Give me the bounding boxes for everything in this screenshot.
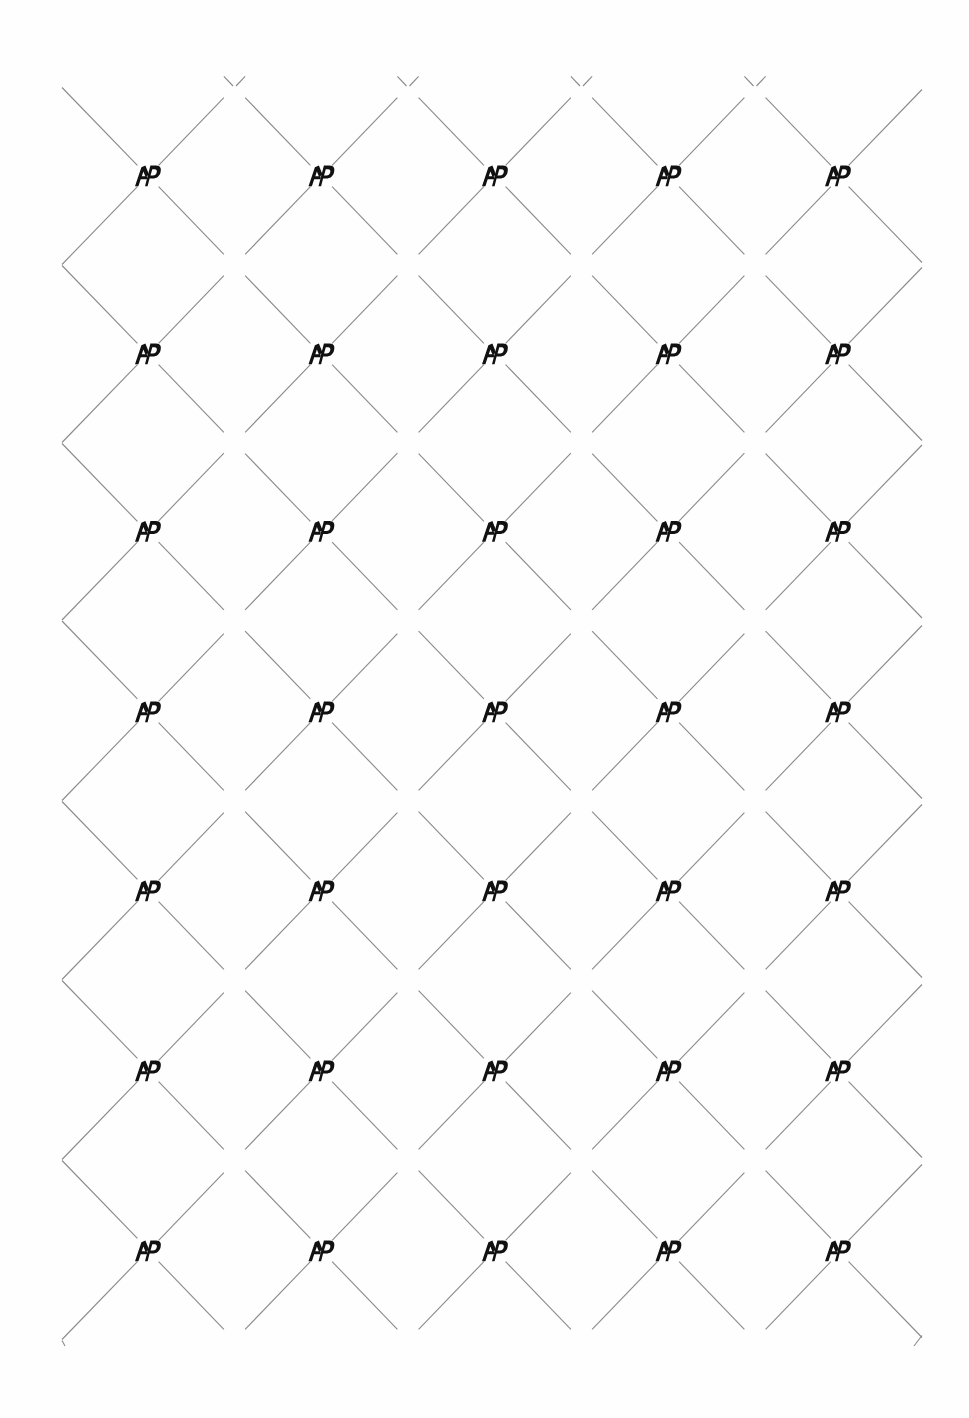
lattice-line [592, 812, 657, 880]
ap-monogram-p-bowl [835, 166, 851, 187]
ap-monogram-p-bowl [666, 344, 682, 365]
lattice-line [766, 276, 831, 344]
lattice-line [332, 453, 397, 521]
lattice-line [766, 991, 831, 1059]
lattice-line [62, 1341, 65, 1347]
ap-monogram-p-bowl [666, 1241, 682, 1262]
lattice-line [679, 1262, 744, 1330]
lattice-line [592, 723, 657, 791]
lattice-line [679, 187, 744, 255]
lattice-line [766, 1262, 831, 1330]
lattice-line [159, 902, 224, 970]
ap-monogram-p-bowl [319, 1241, 335, 1262]
lattice-line [62, 187, 137, 265]
lattice-line [419, 1082, 484, 1150]
lattice-line [159, 453, 224, 521]
diamond-lattice-pattern [0, 0, 969, 1418]
lattice-line [766, 454, 831, 522]
lattice-line [332, 365, 397, 433]
lattice-line [571, 76, 580, 86]
lattice-line [159, 98, 224, 166]
lattice-line [159, 1173, 224, 1241]
ap-monogram-p-bowl [835, 702, 851, 723]
ap-monogram-logo [482, 521, 508, 542]
lattice-line [419, 276, 484, 344]
lattice-line [419, 1262, 484, 1330]
lattice-line [592, 187, 657, 255]
ap-monogram-logo [309, 1061, 335, 1082]
lattice-line [332, 634, 397, 702]
lattice-line [766, 1082, 831, 1150]
ap-monogram-logo [135, 1241, 161, 1262]
lattice-line [592, 631, 657, 699]
ap-monogram-p-bowl [319, 702, 335, 723]
lattice-line [419, 542, 484, 610]
lattice-line [592, 1082, 657, 1150]
lattice-line [506, 902, 571, 970]
ap-monogram-logo [482, 1061, 508, 1082]
ap-monogram-logo [309, 702, 335, 723]
ap-monogram-p-bowl [835, 1061, 851, 1082]
lattice-line [506, 365, 571, 433]
lattice-line [744, 76, 753, 86]
ap-monogram-logo [135, 166, 161, 187]
lattice-line [679, 993, 744, 1061]
lattice-line [592, 365, 657, 433]
ap-monogram-p-bowl [492, 1241, 508, 1262]
ap-monogram-p-bowl [666, 1061, 682, 1082]
lattice-line [245, 812, 310, 880]
lattice-line [592, 1171, 657, 1239]
lattice-line [62, 365, 137, 443]
lattice-line [506, 453, 571, 521]
lattice-line [236, 76, 245, 86]
lattice-line [159, 634, 224, 702]
ap-monogram-logo [656, 881, 682, 902]
ap-monogram-logo [656, 344, 682, 365]
ap-monogram-p-bowl [666, 166, 682, 187]
lattice-line [159, 187, 224, 255]
lattice-line [679, 98, 744, 166]
lattice-line [506, 1082, 571, 1150]
lattice-line [506, 542, 571, 610]
ap-monogram-logo [482, 166, 508, 187]
lattice-line [62, 1082, 137, 1160]
lattice-line [583, 76, 592, 86]
ap-monogram-logo [309, 521, 335, 542]
ap-monogram-p-bowl [145, 166, 161, 187]
lattice-line [766, 187, 831, 255]
lattice-line [245, 631, 310, 699]
lattice-line [506, 1262, 571, 1330]
ap-monogram-p-bowl [145, 344, 161, 365]
ap-monogram-logo [482, 702, 508, 723]
lattice-line [849, 445, 922, 521]
ap-monogram-p-bowl [835, 1241, 851, 1262]
ap-monogram-p-bowl [145, 521, 161, 542]
lattice-line [766, 631, 831, 699]
lattice-line [766, 1171, 831, 1239]
lattice-line [679, 276, 744, 344]
lattice-line [757, 76, 766, 86]
ap-monogram-p-bowl [145, 1061, 161, 1082]
lattice-line [506, 276, 571, 344]
ap-monogram-p-bowl [319, 881, 335, 902]
lattice-line [159, 365, 224, 433]
lattice-line [592, 542, 657, 610]
watermark-page [0, 0, 969, 1418]
lattice-line [506, 993, 571, 1061]
lattice-line [592, 902, 657, 970]
lattice-line [397, 76, 406, 86]
lattice-line [410, 76, 419, 86]
lattice-line [159, 723, 224, 791]
lattice-line [332, 813, 397, 881]
lattice-line [332, 1262, 397, 1330]
lattice-line [679, 542, 744, 610]
lattice-line [592, 276, 657, 344]
ap-monogram-p-bowl [666, 521, 682, 542]
lattice-line [245, 187, 310, 255]
lattice-line [679, 1082, 744, 1150]
lattice-line [62, 723, 137, 801]
ap-monogram-p-bowl [319, 166, 335, 187]
lattice-line [332, 1173, 397, 1241]
lattice-line [766, 812, 831, 880]
lattice-line [849, 1262, 922, 1338]
